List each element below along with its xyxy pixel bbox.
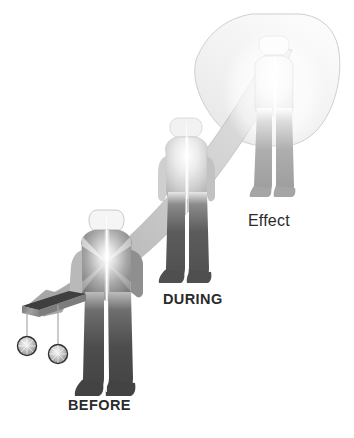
effect-figure [222,30,326,197]
weight-sphere-right [49,345,68,364]
weight-sphere-left [18,337,37,356]
progression-illustration [0,0,354,438]
label-before: BEFORE [68,398,131,413]
label-effect: Effect [248,213,290,229]
label-during: DURING [163,292,223,307]
diagram-canvas: BEFORE DURING Effect [0,0,354,438]
